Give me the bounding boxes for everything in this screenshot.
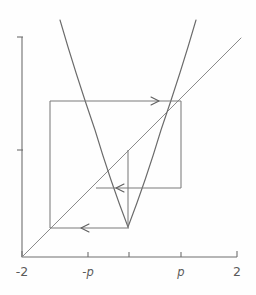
x-tick-label-minus2: -2 [16,264,28,279]
cobweb-figure: -2 -p p 2 [0,0,256,295]
arrow-group [81,97,159,232]
x-tick-label-p: p [176,265,184,279]
x-tick-marks [22,251,237,257]
plot-canvas: -2 -p p 2 [0,0,256,295]
x-tick-label-minus-p: -p [82,265,93,279]
identity-line-y-equals-x [22,38,241,257]
x-tick-label-2: 2 [233,264,241,279]
